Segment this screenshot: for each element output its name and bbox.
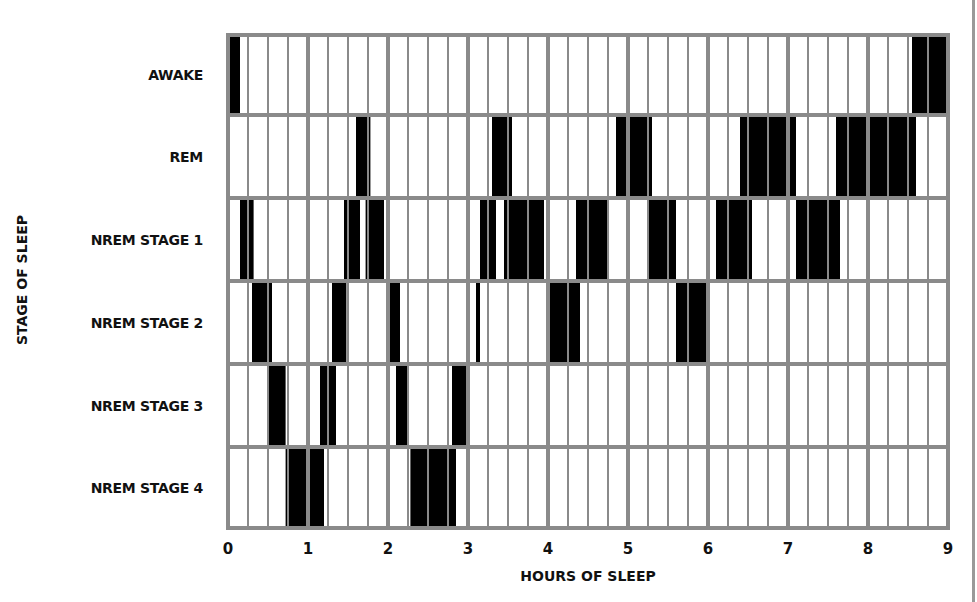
x-tick-label: 8: [863, 540, 873, 558]
y-category-label: AWAKE: [148, 67, 203, 83]
x-tick-label: 0: [223, 540, 233, 558]
x-tick-label: 1: [303, 540, 313, 558]
sleep-block: [676, 281, 708, 364]
y-category-label: NREM STAGE 3: [91, 398, 203, 414]
sleep-block: [576, 198, 608, 281]
y-category-label: REM: [170, 149, 203, 165]
sleep-block: [504, 198, 544, 281]
sleep-block: [286, 447, 324, 528]
sleep-block: [912, 35, 948, 115]
x-tick-label: 4: [543, 540, 553, 558]
sleep-block: [796, 198, 840, 281]
sleep-block: [268, 364, 286, 447]
sleep-block: [476, 281, 480, 364]
sleep-block: [548, 281, 580, 364]
x-tick-label: 5: [623, 540, 633, 558]
y-category-label: NREM STAGE 1: [91, 232, 203, 248]
x-tick-label: 7: [783, 540, 793, 558]
x-tick-label: 6: [703, 540, 713, 558]
y-axis-title: STAGE OF SLEEP: [14, 215, 30, 345]
y-category-label: NREM STAGE 4: [91, 480, 203, 496]
sleep-block: [396, 364, 408, 447]
x-tick-label: 2: [383, 540, 393, 558]
sleep-block: [332, 281, 346, 364]
sleep-block: [344, 198, 360, 281]
plot-area: [0, 0, 977, 602]
sleep-block: [410, 447, 456, 528]
sleep-block: [240, 198, 254, 281]
y-category-label: NREM STAGE 2: [91, 315, 203, 331]
x-axis-title: HOURS OF SLEEP: [520, 568, 655, 584]
sleep-block: [616, 115, 652, 198]
sleep-block: [716, 198, 752, 281]
sleep-stage-chart: AWAKEREMNREM STAGE 1NREM STAGE 2NREM STA…: [0, 0, 977, 602]
sleep-block: [648, 198, 676, 281]
x-tick-label: 9: [943, 540, 953, 558]
page-edge-divider: [972, 0, 975, 602]
x-tick-label: 3: [463, 540, 473, 558]
sleep-block: [452, 364, 468, 447]
